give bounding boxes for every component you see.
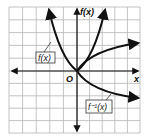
origin-label: O bbox=[66, 74, 73, 84]
svg-text:f(x): f(x) bbox=[38, 53, 51, 63]
y-axis-label: f(x) bbox=[80, 7, 94, 17]
graph: f(x) f⁻¹(x) f(x) x O bbox=[0, 0, 148, 138]
svg-text:f⁻¹(x): f⁻¹(x) bbox=[88, 102, 107, 112]
x-axis-label: x bbox=[133, 74, 140, 84]
